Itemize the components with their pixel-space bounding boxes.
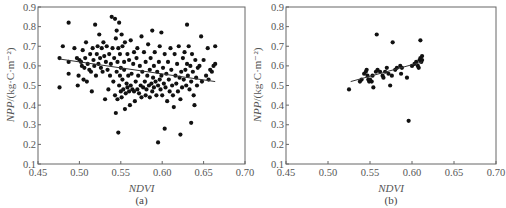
data-point <box>115 70 119 74</box>
data-point <box>195 83 199 87</box>
data-point <box>173 52 177 56</box>
data-point <box>179 70 183 74</box>
data-point <box>202 58 206 62</box>
data-point <box>390 74 394 78</box>
y-tick-label: 0.7 <box>23 41 36 52</box>
data-point <box>171 93 175 97</box>
data-point <box>94 74 98 78</box>
data-point <box>107 52 111 56</box>
data-point <box>91 58 95 62</box>
panel-b: 0.450.500.550.600.650.70 0.10.20.30.40.5… <box>251 2 505 208</box>
data-point <box>142 50 146 54</box>
y-tick-label: 0.6 <box>23 60 36 71</box>
x-tick-label: 0.70 <box>236 167 254 178</box>
x-tick-label: 0.70 <box>487 167 505 178</box>
x-axis-title-b: NDVI <box>377 182 405 194</box>
data-point <box>109 62 113 66</box>
data-point <box>135 87 139 91</box>
data-point <box>101 40 105 44</box>
data-point <box>98 56 102 60</box>
data-point <box>178 97 182 101</box>
data-point <box>182 50 186 54</box>
data-point <box>84 40 88 44</box>
data-point <box>391 40 395 44</box>
data-point <box>156 83 160 87</box>
data-point <box>168 89 172 93</box>
data-point <box>115 97 119 101</box>
data-point <box>100 70 104 74</box>
data-point <box>76 83 80 87</box>
data-point <box>129 83 133 87</box>
data-point <box>105 44 109 48</box>
y-tick-label: 0.3 <box>23 119 36 130</box>
data-point <box>67 72 71 76</box>
data-point <box>90 89 94 93</box>
data-point <box>114 111 118 115</box>
y-axis-title-b-units: /(kg·C·m⁻²) <box>251 47 264 101</box>
data-point <box>158 87 162 91</box>
data-point <box>149 56 153 60</box>
data-point <box>118 74 122 78</box>
data-point <box>192 103 196 107</box>
data-point <box>148 95 152 99</box>
data-point <box>113 17 117 21</box>
data-point <box>140 70 144 74</box>
data-point <box>183 68 187 72</box>
data-point <box>117 83 121 87</box>
data-point <box>190 52 194 56</box>
data-point <box>97 32 101 36</box>
y-tick-label: 0.6 <box>271 60 284 71</box>
data-point <box>166 60 170 64</box>
data-point <box>120 32 124 36</box>
data-point <box>83 56 87 60</box>
y-tick-label: 0.3 <box>271 119 284 130</box>
data-point <box>127 58 131 62</box>
data-point <box>156 140 160 144</box>
data-point <box>160 93 164 97</box>
x-tick-label: 0.55 <box>112 167 130 178</box>
panel-label-a: (a) <box>135 194 148 207</box>
data-point <box>347 87 351 91</box>
data-point <box>365 68 369 72</box>
y-tick-label: 0.5 <box>23 80 36 91</box>
data-point <box>96 44 100 48</box>
y-axis-title-b-italic: NPP <box>251 101 263 123</box>
data-point <box>138 64 142 68</box>
data-point <box>163 127 167 131</box>
data-point <box>139 95 143 99</box>
data-point <box>134 79 138 83</box>
data-point <box>108 74 112 78</box>
data-point <box>102 54 106 58</box>
data-point <box>153 50 157 54</box>
data-point <box>405 76 409 80</box>
y-tick-label: 0.8 <box>271 21 284 32</box>
data-point <box>385 66 389 70</box>
data-point <box>180 85 184 89</box>
x-tick-label: 0.60 <box>403 167 421 178</box>
data-point <box>120 95 124 99</box>
data-point <box>72 46 76 50</box>
data-point <box>154 93 158 97</box>
data-point <box>67 21 71 25</box>
x-tick-label: 0.55 <box>361 167 379 178</box>
data-point <box>381 76 385 80</box>
data-point <box>199 34 203 38</box>
data-point <box>192 93 196 97</box>
data-point <box>123 40 127 44</box>
data-point <box>184 83 188 87</box>
data-point <box>57 85 61 89</box>
data-point <box>116 46 120 50</box>
data-point <box>61 44 65 48</box>
data-point <box>146 42 150 46</box>
data-point <box>158 78 162 82</box>
data-point <box>96 62 100 66</box>
data-point <box>165 99 169 103</box>
points-a <box>57 15 217 145</box>
x-axis-title-a: NDVI <box>128 182 156 194</box>
y-axis-title-a: NPP/(kg·C·m⁻²) <box>4 47 17 123</box>
data-point <box>88 52 92 56</box>
data-point <box>193 58 197 62</box>
data-point <box>163 85 167 89</box>
data-point <box>144 93 148 97</box>
data-point <box>172 105 176 109</box>
